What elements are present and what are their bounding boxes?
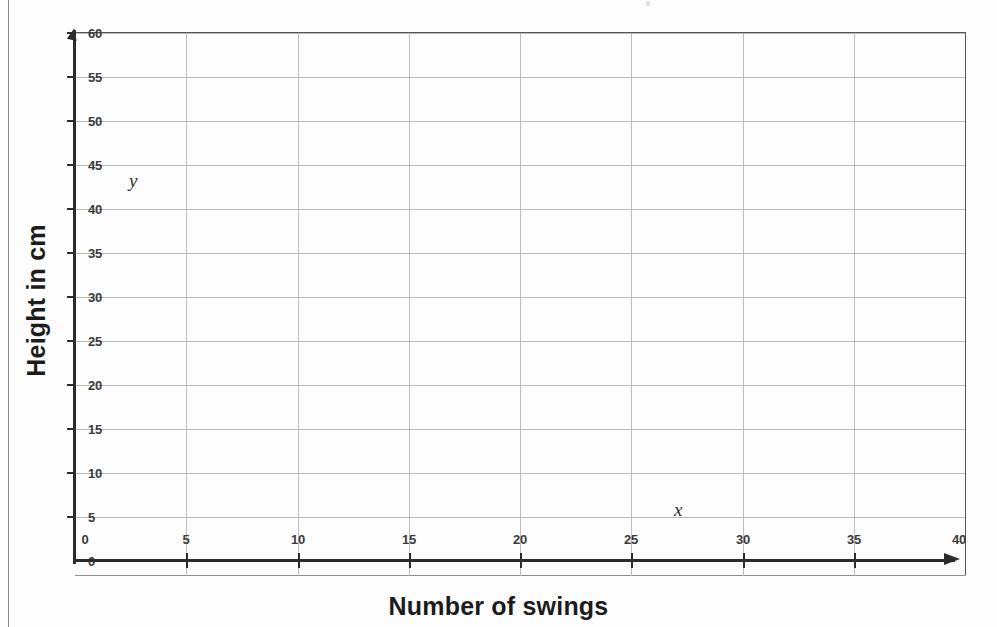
y-tick-label: 5: [88, 510, 95, 525]
x-axis-arrow-icon: [944, 553, 960, 565]
x-tick-label: 0: [65, 532, 105, 547]
x-tick-label: 40: [939, 532, 979, 547]
plot-border-right: [965, 32, 966, 576]
x-axis-title: Number of swings: [0, 592, 997, 621]
y-tick-label: 45: [88, 158, 102, 173]
y-tick-label: 55: [88, 70, 102, 85]
gridline-vertical: [298, 33, 299, 576]
x-tick-label: 5: [166, 532, 206, 547]
x-variable-label: x: [674, 499, 682, 521]
y-variable-label: y: [129, 170, 137, 192]
x-tick-label: 35: [834, 532, 874, 547]
y-tick-label: 50: [88, 114, 102, 129]
x-tick-label: 30: [723, 532, 763, 547]
gridline-vertical: [520, 33, 521, 576]
gridline-vertical: [743, 33, 744, 576]
y-tick-label: 25: [88, 334, 102, 349]
x-axis-line: [73, 559, 955, 562]
y-tick-label: 35: [88, 246, 102, 261]
x-tick-label: 25: [611, 532, 651, 547]
gridline-vertical: [186, 33, 187, 576]
page-margin-rule: [8, 0, 9, 627]
gridline-vertical: [854, 33, 855, 576]
y-tick-label: 40: [88, 202, 102, 217]
x-tick-label: 20: [500, 532, 540, 547]
y-axis-title: Height in cm: [22, 181, 51, 421]
y-tick-label: 30: [88, 290, 102, 305]
y-tick-label: 60: [88, 26, 102, 41]
x-tick-label: 10: [278, 532, 318, 547]
y-axis-line: [73, 30, 76, 564]
scan-artifact-speck: [646, 1, 650, 6]
graph-page: 0510152025303540455055600510152025303540…: [0, 0, 997, 627]
y-tick-label: 20: [88, 378, 102, 393]
y-tick-label: 15: [88, 422, 102, 437]
x-tick-label: 15: [389, 532, 429, 547]
y-tick-label: 10: [88, 466, 102, 481]
gridline-vertical: [631, 33, 632, 576]
gridline-vertical: [409, 33, 410, 576]
